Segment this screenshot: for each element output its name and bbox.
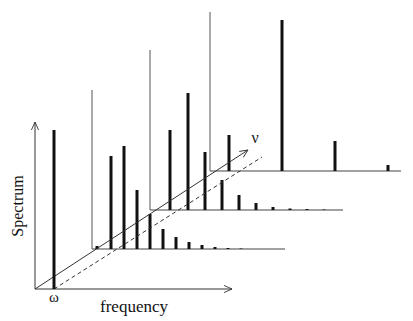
frequency-axis-label: frequency bbox=[100, 297, 168, 316]
omega-dashed-guide bbox=[54, 157, 262, 289]
nu-label: ν bbox=[251, 129, 258, 146]
spectrum-3d-diagram: Spectrum frequency ω ν bbox=[0, 0, 413, 321]
omega-label: ω bbox=[49, 289, 59, 305]
plane-3 bbox=[210, 12, 401, 171]
plane-2 bbox=[150, 50, 343, 210]
nu-axis bbox=[35, 150, 248, 289]
spectrum-planes bbox=[92, 12, 401, 249]
spectrum-axis-label: Spectrum bbox=[9, 175, 27, 237]
